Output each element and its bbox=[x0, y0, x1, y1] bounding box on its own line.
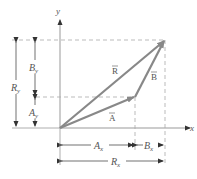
svg-text:A: A bbox=[109, 113, 116, 123]
vector-addition-diagram: y x R B A Ry By Ay Ax Bx Rx bbox=[0, 0, 197, 179]
svg-text:R: R bbox=[112, 66, 118, 76]
svg-text:B: B bbox=[151, 72, 157, 82]
x-axis-label: x bbox=[189, 123, 194, 133]
vector-label-a: A bbox=[109, 113, 116, 123]
y-axis-label: y bbox=[55, 6, 60, 16]
vector-a bbox=[60, 97, 134, 128]
vector-b bbox=[135, 41, 164, 97]
vector-label-b: B bbox=[151, 72, 157, 82]
vector-label-r: R bbox=[112, 66, 118, 76]
